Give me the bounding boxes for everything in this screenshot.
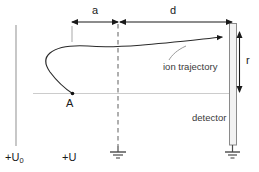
trajectory-start-point-a	[71, 92, 75, 96]
point-label-a: A	[66, 98, 73, 109]
potential-label-u0-text: +U	[5, 151, 19, 163]
dimension-label-d: d	[170, 5, 176, 16]
ground-symbol-right	[225, 145, 240, 158]
dimension-label-a: a	[92, 5, 98, 16]
potential-label-u0-subscript: 0	[19, 156, 23, 165]
ion-trajectory-diagram: a d r A ion trajectory detector +U0 +U	[0, 0, 259, 172]
diagram-canvas	[0, 0, 259, 172]
detector-plate	[230, 24, 237, 146]
potential-label-u: +U	[62, 152, 76, 163]
ion-trajectory-label: ion trajectory	[163, 62, 217, 72]
ion-trajectory-leader-line	[169, 46, 186, 60]
ground-symbol-center	[110, 146, 126, 158]
detector-label: detector	[192, 113, 226, 123]
potential-label-u0: +U0	[5, 152, 24, 163]
dimension-label-r: r	[246, 55, 250, 66]
